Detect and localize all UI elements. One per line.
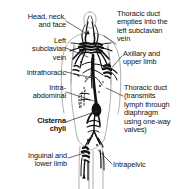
label-head-neck-face: Head, neck, and face [3, 13, 66, 30]
label-inguinal-and-lower-limb: Inguinal and lower limb [3, 152, 67, 169]
label-cisterna-chyli: Cisterna chyli [3, 117, 66, 134]
label-left-subclavian-vein: Left subclavian vein [3, 37, 66, 62]
label-axillary-and-upper-limb: Axillary and upper limb [123, 50, 189, 67]
leader-intrapelvic [98, 150, 112, 164]
body-outline [61, 12, 121, 189]
leader-intrathoracic [66, 72, 93, 78]
label-intrathoracic: Intrathoracic [3, 69, 66, 77]
label-intrapelvic: Intrapelvic [113, 161, 168, 169]
label-thoracic-duct-transmits: Thoracic duct (transmits lymph through d… [124, 84, 190, 134]
label-intra-abdominal: Intra- abdominal [3, 84, 66, 101]
label-thoracic-duct-empties: Thoracic duct empties into the left subc… [117, 10, 189, 44]
lymphatic-system-diagram: Head, neck, and face Left subclavian vei… [0, 0, 191, 189]
